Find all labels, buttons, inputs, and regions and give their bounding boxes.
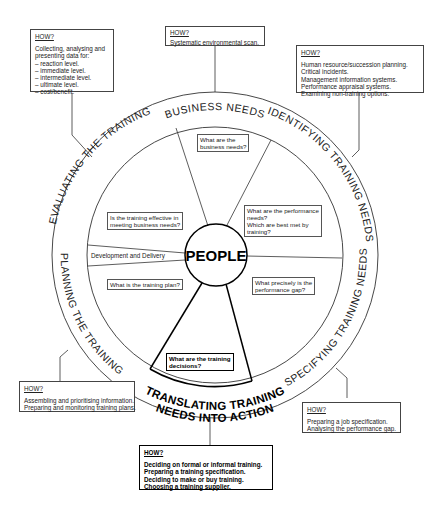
stage-business-needs: BUSINESS NEEDS	[163, 100, 267, 120]
how-box-translating: HOW? Deciding on formal or informal trai…	[139, 445, 273, 490]
how-box-identifying: HOW? Human resource/succession planning.…	[296, 45, 424, 93]
how-box-business-needs: HOW? Systematic environmental scan.	[165, 26, 265, 46]
stage-specifying: SPECIFYING TRAINING NEEDS	[282, 248, 369, 389]
development-delivery-label: Development and Delivery	[91, 252, 166, 260]
question-training-decisions: What are the training decisions?	[166, 353, 234, 371]
how-box-evaluating: HOW? Collecting, analysing and presentin…	[30, 29, 114, 92]
svg-text:EVALUATING THE TRAINING: EVALUATING THE TRAINING	[46, 104, 152, 225]
question-performance-gap: What precisely is the performance gap?	[252, 277, 315, 295]
question-training-effective: Is the training effective in meeting bus…	[107, 212, 183, 230]
people-label: PEOPLE	[186, 247, 247, 264]
how-box-specifying: HOW? Preparing a job specification. Anal…	[302, 402, 401, 433]
question-performance-needs: What are the performance needs? Which ar…	[244, 205, 322, 237]
svg-text:BUSINESS NEEDS: BUSINESS NEEDS	[163, 100, 267, 120]
question-business-needs: What are the business needs?	[197, 134, 249, 152]
how-box-planning: HOW? Assembling and prioritising informa…	[19, 381, 135, 412]
stage-evaluating: EVALUATING THE TRAINING	[46, 104, 152, 225]
question-training-plan: What is the training plan?	[107, 279, 183, 290]
svg-text:SPECIFYING TRAINING NEEDS: SPECIFYING TRAINING NEEDS	[282, 248, 369, 389]
svg-text:PLANNING THE TRAINING: PLANNING THE TRAINING	[59, 253, 126, 377]
stage-planning: PLANNING THE TRAINING	[59, 253, 126, 377]
